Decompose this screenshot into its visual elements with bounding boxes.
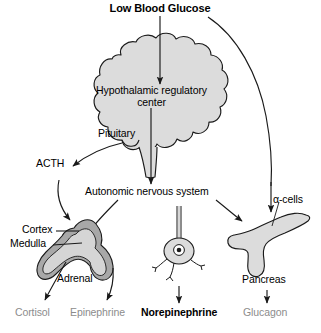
figure-low-blood-glucose-response: Low Blood Glucose Hypothalamic regulator…	[0, 0, 321, 333]
adrenal-label: Adrenal	[57, 273, 93, 285]
cortex-label: Cortex	[22, 224, 52, 236]
neuron-shape	[152, 206, 205, 281]
hypothalamus-label-line2: center	[85, 97, 218, 109]
acth-label: ACTH	[36, 158, 64, 170]
arrow-ans-to-pancreas	[216, 200, 242, 221]
pancreas-shape	[228, 213, 310, 276]
pancreas-label: Pancreas	[242, 274, 286, 286]
product-glucagon: Glucagon	[243, 307, 287, 319]
medulla-label: Medulla	[10, 238, 46, 250]
figure-caption	[0, 326, 321, 333]
ans-label: Autonomic nervous system	[85, 186, 209, 198]
arrow-acth-to-adrenal-cortex	[58, 180, 70, 220]
product-cortisol: Cortisol	[15, 307, 50, 319]
stimulus-label: Low Blood Glucose	[98, 2, 222, 14]
hypothalamus-label-line1: Hypothalamic regulatory	[85, 85, 218, 97]
pituitary-label: Pituitary	[98, 128, 135, 140]
arrow-pituitary-to-acth	[73, 143, 122, 166]
product-epinephrine: Epinephrine	[70, 307, 125, 319]
product-norepinephrine: Norepinephrine	[141, 307, 217, 319]
alpha-cells-label: α-cells	[273, 194, 303, 206]
